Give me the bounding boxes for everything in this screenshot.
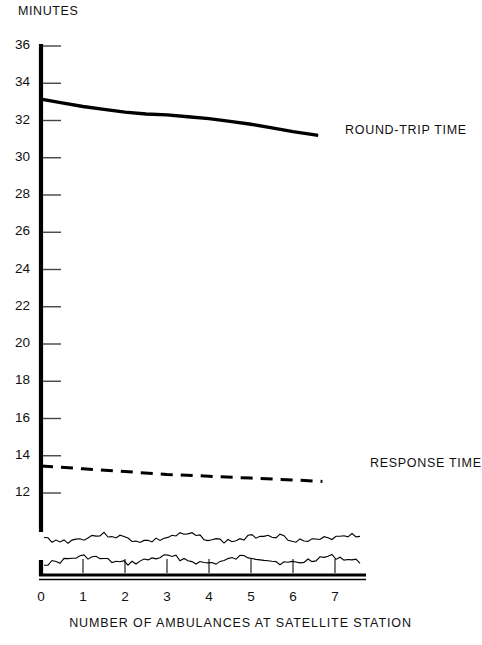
y-tick-label: 26 — [0, 223, 30, 238]
series-label: ROUND-TRIP TIME — [345, 123, 467, 137]
axis-break-marker — [44, 532, 360, 565]
x-tick-label: 3 — [157, 589, 177, 604]
y-tick-label: 24 — [0, 261, 30, 276]
x-axis-title: NUMBER OF AMBULANCES AT SATELLITE STATIO… — [0, 616, 481, 630]
axes-layer — [39, 44, 366, 580]
y-tick-label: 30 — [0, 149, 30, 164]
x-tick-label: 5 — [241, 589, 261, 604]
series-label: RESPONSE TIME — [370, 456, 482, 470]
y-tick-label: 36 — [0, 37, 30, 52]
y-tick-label: 20 — [0, 335, 30, 350]
x-tick-label: 4 — [199, 589, 219, 604]
y-tick-label: 14 — [0, 447, 30, 462]
x-tick-label: 6 — [283, 589, 303, 604]
y-tick-label: 34 — [0, 74, 30, 89]
x-tick-label: 0 — [31, 589, 51, 604]
y-tick-label: 18 — [0, 372, 30, 387]
series-line — [41, 99, 318, 135]
x-tick-label: 7 — [325, 589, 345, 604]
x-tick-label: 2 — [115, 589, 135, 604]
x-tick-label: 1 — [73, 589, 93, 604]
y-tick-label: 12 — [0, 484, 30, 499]
tick-marks — [43, 46, 335, 573]
series-line — [41, 466, 322, 481]
y-tick-label: 16 — [0, 410, 30, 425]
data-series-layer — [41, 99, 322, 481]
y-tick-label: 28 — [0, 186, 30, 201]
y-tick-label: 22 — [0, 298, 30, 313]
y-tick-label: 32 — [0, 112, 30, 127]
